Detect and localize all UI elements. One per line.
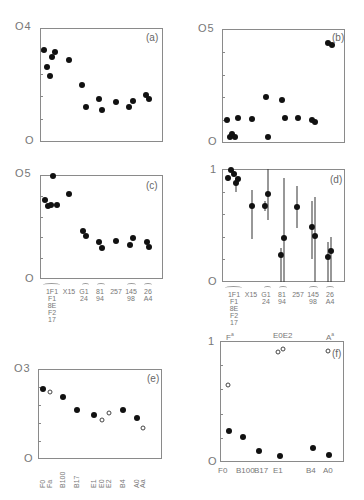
x-category-label: B17 bbox=[73, 476, 80, 488]
filled-marker bbox=[96, 239, 102, 245]
category-brace bbox=[309, 286, 318, 290]
plot-frame-e bbox=[38, 369, 162, 459]
x-category-label: E2 bbox=[105, 479, 112, 488]
filled-marker bbox=[40, 386, 46, 392]
x-category-label: B100 bbox=[236, 466, 255, 475]
x-category-label: E0 bbox=[98, 479, 105, 488]
x-category-label: Aa bbox=[139, 479, 146, 488]
filled-marker bbox=[130, 235, 136, 241]
filled-marker bbox=[52, 49, 58, 55]
x-category-label: F0 bbox=[218, 466, 227, 475]
x-category-label: B100 bbox=[59, 472, 66, 488]
y-tick bbox=[222, 192, 225, 193]
filled-marker bbox=[235, 176, 241, 182]
error-bar bbox=[315, 197, 316, 282]
plot-frame-f bbox=[220, 341, 344, 462]
filled-marker bbox=[295, 115, 301, 121]
filled-marker bbox=[226, 428, 232, 434]
filled-marker bbox=[127, 242, 133, 248]
top-category-label: Fa bbox=[226, 331, 234, 342]
open-marker bbox=[107, 411, 112, 416]
filled-marker bbox=[249, 116, 255, 122]
category-brace bbox=[326, 286, 334, 290]
plot-frame-b bbox=[222, 29, 345, 143]
filled-marker bbox=[54, 202, 60, 208]
category-brace bbox=[264, 286, 271, 290]
filled-marker bbox=[66, 191, 72, 197]
y-tick bbox=[220, 414, 223, 415]
category-brace bbox=[144, 283, 152, 287]
x-category-label: F0 bbox=[39, 480, 46, 488]
ylabel-d-top: 1 bbox=[210, 163, 217, 175]
y-tick bbox=[222, 52, 225, 53]
filled-marker bbox=[240, 434, 246, 440]
y-tick bbox=[40, 74, 43, 75]
error-bar bbox=[252, 190, 253, 239]
filled-marker bbox=[99, 107, 105, 113]
filled-marker bbox=[83, 233, 89, 239]
y-tick bbox=[222, 237, 225, 238]
error-bar bbox=[284, 178, 285, 282]
ylabel-a-top: O4 bbox=[15, 20, 32, 32]
top-category-label: E0E2 bbox=[273, 331, 293, 340]
y-tick bbox=[40, 217, 43, 218]
y-tick bbox=[40, 258, 43, 259]
filled-marker bbox=[83, 104, 89, 110]
x-category-label: B4 bbox=[306, 466, 316, 475]
ylabel-e-top: O3 bbox=[14, 362, 31, 374]
filled-marker bbox=[66, 57, 72, 63]
filled-marker bbox=[279, 97, 285, 103]
filled-marker bbox=[281, 235, 287, 241]
ylabel-c-top: O5 bbox=[15, 167, 32, 179]
ylabel-e-bottom: O bbox=[24, 452, 34, 464]
filled-marker bbox=[96, 96, 102, 102]
x-category-label: Fa bbox=[46, 480, 53, 488]
filled-marker bbox=[60, 394, 66, 400]
y-tick bbox=[38, 423, 41, 424]
filled-marker bbox=[224, 117, 230, 123]
filled-marker bbox=[256, 448, 262, 454]
x-category-label: E1 bbox=[90, 479, 97, 488]
filled-marker bbox=[134, 415, 140, 421]
error-bar bbox=[312, 201, 313, 260]
filled-marker bbox=[99, 245, 105, 251]
filled-marker bbox=[329, 42, 335, 48]
filled-marker bbox=[277, 453, 283, 459]
filled-marker bbox=[49, 54, 55, 60]
filled-marker bbox=[312, 233, 318, 239]
y-tick bbox=[220, 438, 223, 439]
filled-marker bbox=[130, 98, 136, 104]
plot-frame-a bbox=[40, 28, 163, 142]
open-marker bbox=[281, 347, 286, 352]
y-tick bbox=[38, 441, 41, 442]
filled-marker bbox=[235, 115, 241, 121]
filled-marker bbox=[282, 115, 288, 121]
y-tick bbox=[220, 365, 223, 366]
plot-frame-c bbox=[40, 175, 163, 279]
x-category-label: A0 bbox=[323, 466, 333, 475]
category-brace bbox=[279, 286, 287, 290]
x-category-label: E1 bbox=[273, 466, 283, 475]
filled-marker bbox=[120, 407, 126, 413]
filled-marker bbox=[44, 64, 50, 70]
ylabel-f-bottom: O bbox=[208, 455, 218, 467]
y-tick bbox=[222, 259, 225, 260]
filled-marker bbox=[91, 412, 97, 418]
category-brace bbox=[43, 283, 60, 287]
y-tick bbox=[40, 96, 43, 97]
ylabel-f-top: 1 bbox=[208, 335, 215, 347]
ylabel-a-bottom: O bbox=[25, 134, 35, 146]
open-marker bbox=[326, 348, 331, 353]
filled-marker bbox=[42, 197, 48, 203]
y-tick bbox=[222, 214, 225, 215]
filled-marker bbox=[146, 96, 152, 102]
filled-marker bbox=[263, 94, 269, 100]
ylabel-b-top: O5 bbox=[198, 22, 215, 34]
filled-marker bbox=[126, 104, 132, 110]
filled-marker bbox=[265, 191, 271, 197]
filled-marker bbox=[310, 445, 316, 451]
filled-marker bbox=[146, 244, 152, 250]
y-tick bbox=[38, 405, 41, 406]
category-brace bbox=[127, 283, 136, 287]
filled-marker bbox=[47, 73, 53, 79]
